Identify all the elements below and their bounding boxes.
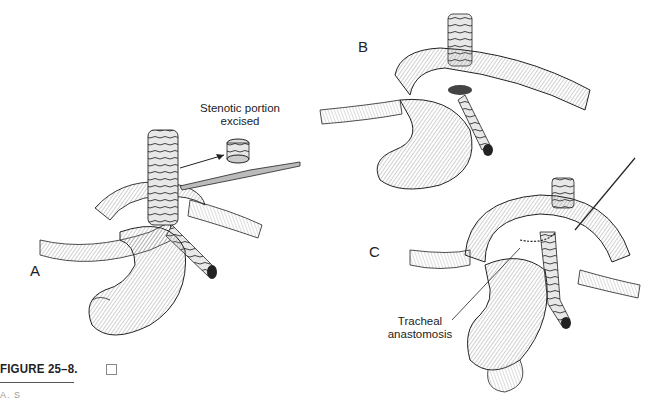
callout-tracheal-line2: anastomosis — [380, 328, 460, 341]
panel-label-a: A — [30, 262, 40, 279]
callout-stenotic-portion: Stenotic portion excised — [185, 102, 295, 128]
callout-stenotic-line1: Stenotic portion — [185, 102, 295, 115]
panel-a-drawing — [40, 130, 300, 335]
panel-label-b: B — [358, 38, 368, 55]
callout-stenotic-line2: excised — [185, 115, 295, 128]
figure-caption: FIGURE 25–8. — [0, 362, 117, 376]
figure-title: FIGURE 25–8. — [0, 362, 78, 376]
callout-tracheal-anastomosis: Tracheal anastomosis — [380, 315, 460, 341]
expand-box-icon[interactable] — [106, 364, 117, 375]
caption-divider — [0, 382, 74, 383]
panel-c-drawing — [410, 158, 640, 392]
callout-tracheal-line1: Tracheal — [380, 315, 460, 328]
caption-text-partial: A. S — [0, 390, 21, 400]
panel-label-c: C — [369, 243, 380, 260]
